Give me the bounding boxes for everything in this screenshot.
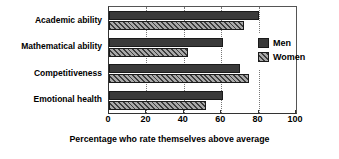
x-tick-0: 0 [105,114,110,124]
bar-men-competitiveness [109,64,240,73]
x-tick-60: 60 [215,114,225,124]
category-label-mathematical-ability: Mathematical ability [0,41,102,51]
x-tickmark-0 [108,110,109,113]
bar-women-mathematical-ability [109,48,188,57]
bar-group-emotional-health [109,87,296,114]
x-axis-ticks: 0 20 40 60 80 100 [108,114,295,126]
x-tickmark-20 [145,110,146,113]
x-tickmark-40 [183,110,184,113]
bar-chart: Academic ability Mathematical ability Co… [0,0,339,159]
legend-label-women: Women [273,52,305,62]
bar-women-competitiveness [109,74,249,83]
category-label-competitiveness: Competitiveness [0,68,102,78]
legend-label-men: Men [273,38,291,48]
x-tick-80: 80 [253,114,263,124]
x-tick-20: 20 [140,114,150,124]
x-tick-40: 40 [178,114,188,124]
x-tickmark-60 [220,110,221,113]
x-tickmark-80 [258,110,259,113]
bar-women-emotional-health [109,101,206,110]
category-axis-labels: Academic ability Mathematical ability Co… [0,6,105,112]
bar-women-academic-ability [109,21,244,30]
x-axis-title: Percentage who rate themselves above ave… [0,134,339,144]
x-tick-100: 100 [287,114,302,124]
legend-item-women: Women [258,50,305,63]
x-tickmark-100 [295,110,296,113]
legend-swatch-men-icon [258,38,269,48]
legend: Men Women [258,34,295,69]
category-label-academic-ability: Academic ability [0,15,102,25]
bar-men-mathematical-ability [109,38,223,47]
bar-group-academic-ability [109,7,296,34]
bar-men-emotional-health [109,91,223,100]
bar-men-academic-ability [109,11,259,20]
category-label-emotional-health: Emotional health [0,94,102,104]
legend-swatch-women-icon [258,52,269,62]
legend-item-men: Men [258,36,291,49]
